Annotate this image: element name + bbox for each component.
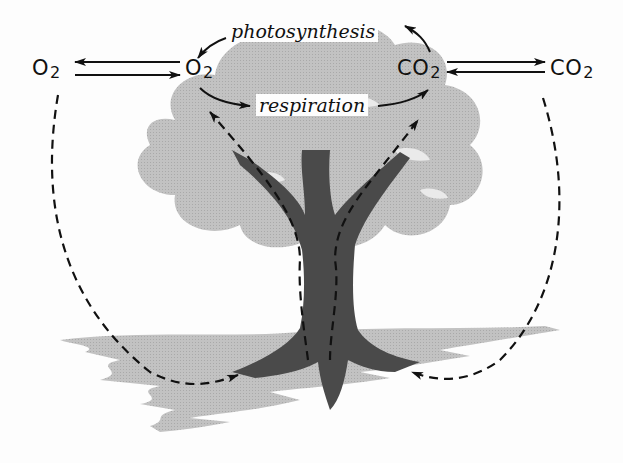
o2-atmosphere-label: O2	[32, 56, 61, 82]
co2-atmosphere-label: CO2	[550, 56, 594, 82]
co2-leaf-label: CO2	[397, 56, 441, 82]
respiration-label: respiration	[256, 94, 368, 116]
o2-leaf-label: O2	[185, 56, 214, 82]
photosynthesis-label: photosynthesis	[228, 20, 378, 42]
diagram-artwork	[0, 0, 623, 463]
co2-exchange-arrows	[447, 62, 545, 72]
tree-gas-exchange-diagram: O2 O2 CO2 CO2 photosynthesis respiration	[0, 0, 623, 463]
o2-exchange-arrows	[75, 62, 180, 75]
